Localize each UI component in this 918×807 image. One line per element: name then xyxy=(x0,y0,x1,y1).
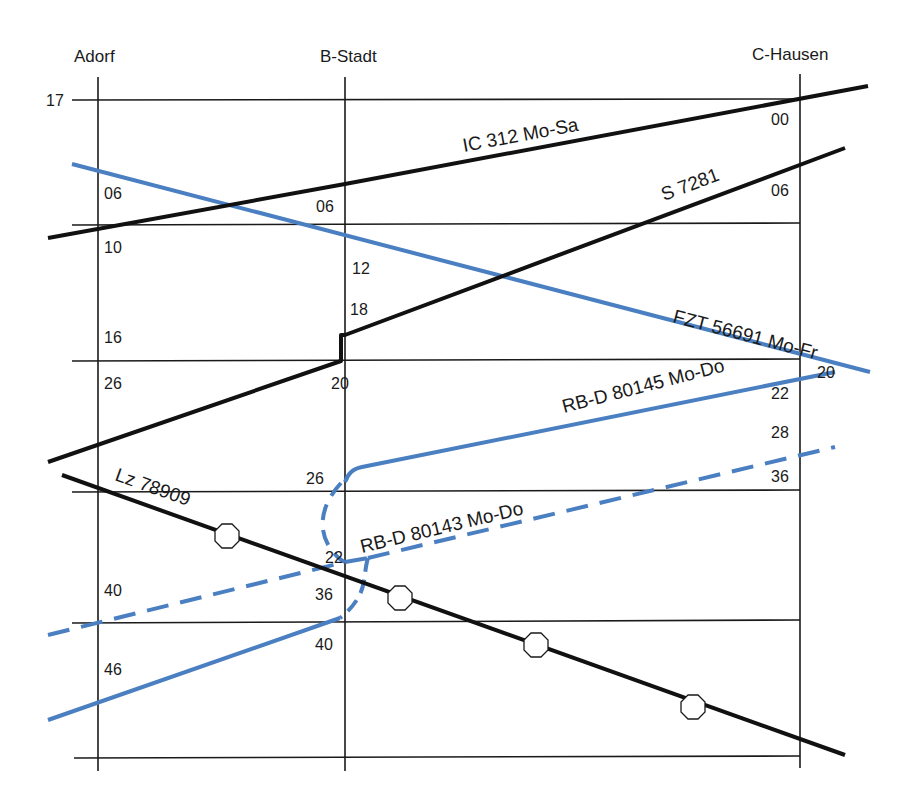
time-label: 06 xyxy=(104,185,122,202)
time-label: 16 xyxy=(104,329,122,346)
time-label: 20 xyxy=(331,375,349,392)
time-label: 20 xyxy=(817,364,835,381)
gridline-row-2 xyxy=(72,223,800,225)
gridline-row-6 xyxy=(74,756,800,758)
time-label: 26 xyxy=(306,470,324,487)
station-label-bstadt: B-Stadt xyxy=(320,47,377,66)
time-label: 26 xyxy=(104,375,122,392)
gridline-row-5 xyxy=(72,620,800,623)
train-line-ic312 xyxy=(48,86,868,238)
train-label-rbd80145: RB-D 80145 Mo-Do xyxy=(560,355,727,417)
station-label-adorf: Adorf xyxy=(74,47,115,66)
time-label: 12 xyxy=(352,260,370,277)
time-label: 22 xyxy=(325,549,343,566)
hour-label: 17 xyxy=(46,92,64,109)
train-line-s7281 xyxy=(48,148,845,462)
gridline-17-00 xyxy=(72,99,800,100)
train-label-lz78909: Lz 78909 xyxy=(113,464,194,510)
octagon-marker-icon xyxy=(681,695,705,719)
time-label: 06 xyxy=(316,198,334,215)
time-label: 46 xyxy=(104,661,122,678)
octagon-marker-icon xyxy=(524,633,548,657)
octagon-marker-icon xyxy=(215,524,239,548)
time-label: 00 xyxy=(771,111,789,128)
train-timetable-diagram: Adorf B-Stadt C-Hausen 17 xyxy=(0,0,918,807)
time-label: 28 xyxy=(771,424,789,441)
time-label: 06 xyxy=(771,182,789,199)
time-gridlines xyxy=(72,99,800,758)
train-label-rbd80143: RB-D 80143 Mo-Do xyxy=(358,498,525,557)
train-line-rbd80145-lower xyxy=(48,618,340,720)
train-lines xyxy=(48,86,870,755)
time-label: 36 xyxy=(771,468,789,485)
gridline-row-3 xyxy=(72,359,800,361)
octagon-marker-icon xyxy=(388,586,412,610)
train-line-rbd80143-right xyxy=(368,447,835,558)
time-label: 36 xyxy=(315,586,333,603)
time-label: 22 xyxy=(771,385,789,402)
time-label: 10 xyxy=(104,239,122,256)
train-label-fzt56691: FZT 56691 Mo-Fr xyxy=(671,306,821,364)
station-label-chausen: C-Hausen xyxy=(752,45,829,64)
time-label: 18 xyxy=(350,301,368,318)
time-label: 40 xyxy=(315,636,333,653)
time-label: 40 xyxy=(104,582,122,599)
